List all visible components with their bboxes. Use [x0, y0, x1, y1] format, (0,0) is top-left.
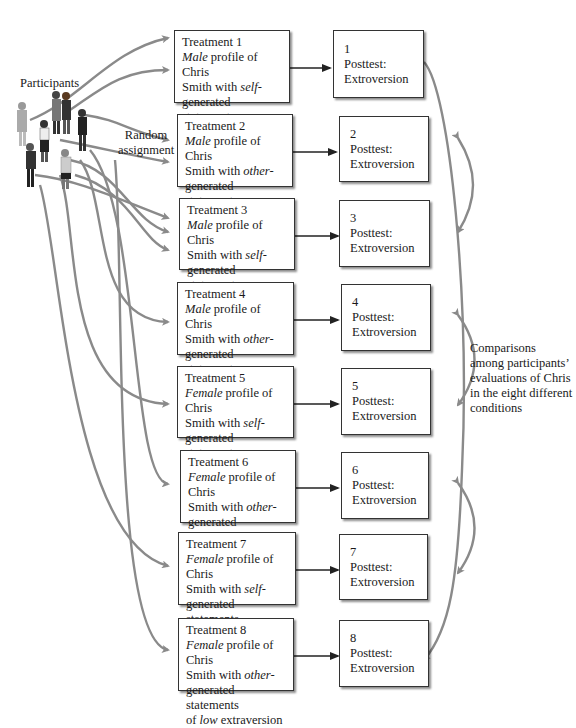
- treatment-line: Female profile of Chris: [186, 552, 289, 582]
- treatment-line: Smith with self-: [187, 248, 288, 263]
- posttest-measure: Extroversion: [352, 325, 430, 340]
- treatment-title: Treatment 3: [187, 203, 288, 218]
- posttest-label: Posttest:: [344, 57, 423, 72]
- random-assignment-line: assignment: [118, 143, 174, 158]
- treatment-line: Female profile of Chris: [185, 386, 287, 416]
- treatment-line: Male profile of Chris: [187, 218, 288, 248]
- treatment-title: Treatment 2: [185, 119, 286, 134]
- treatment-line: Smith with other-: [185, 164, 286, 179]
- treatment-line: of low extraversion: [186, 713, 287, 728]
- posttest-number: 3: [350, 211, 429, 226]
- posttest-measure: Extroversion: [352, 493, 428, 508]
- treatment-line: Smith with self-: [186, 582, 289, 597]
- posttest-measure: Extroversion: [350, 157, 428, 172]
- treatment-line: Male profile of Chris: [185, 134, 286, 164]
- treatment-line: Female profile of Chris: [186, 638, 287, 668]
- participants-illustration: [0, 0, 170, 200]
- treatment-line: Smith with self-: [182, 80, 283, 95]
- comparisons-line: in the eight different: [470, 386, 576, 401]
- treatment-title: Treatment 8: [186, 623, 287, 638]
- posttest-label: Posttest:: [352, 310, 430, 325]
- treatment-box-2: Treatment 2Male profile of ChrisSmith wi…: [177, 114, 293, 187]
- treatment-line: Smith with other-: [186, 668, 287, 683]
- posttest-box-7: 7Posttest:Extroversion: [339, 534, 428, 600]
- treatment-line: Smith with other-: [185, 332, 287, 347]
- treatment-title: Treatment 5: [185, 371, 287, 386]
- person-icon: [17, 91, 87, 189]
- comparisons-label: Comparisons among participants’ evaluati…: [470, 341, 576, 416]
- treatment-title: Treatment 6: [188, 455, 289, 470]
- treatment-box-8: Treatment 8Female profile of ChrisSmith …: [178, 618, 294, 691]
- treatment-line: Male profile of Chris: [182, 50, 283, 80]
- comparisons-line: among participants’: [470, 356, 576, 371]
- posttest-measure: Extroversion: [352, 409, 430, 424]
- treatment-title: Treatment 4: [185, 287, 287, 302]
- posttest-number: 5: [352, 379, 430, 394]
- posttest-number: 4: [352, 295, 430, 310]
- posttest-measure: Extroversion: [344, 72, 423, 87]
- posttest-measure: Extroversion: [350, 661, 428, 676]
- treatment-line: Smith with self-: [185, 416, 287, 431]
- posttest-label: Posttest:: [352, 394, 430, 409]
- comparisons-line: Comparisons: [470, 341, 576, 356]
- posttest-label: Posttest:: [350, 226, 429, 241]
- treatment-box-3: Treatment 3Male profile of ChrisSmith wi…: [179, 198, 295, 270]
- comparisons-line: conditions: [470, 401, 576, 416]
- random-assignment-label: Random assignment: [118, 128, 174, 158]
- posttest-measure: Extroversion: [350, 241, 429, 256]
- posttest-number: 6: [352, 463, 428, 478]
- treatment-line: Male profile of Chris: [185, 302, 287, 332]
- posttest-number: 8: [350, 631, 428, 646]
- treatment-title: Treatment 7: [186, 537, 289, 552]
- participants-label: Participants: [20, 76, 79, 91]
- posttest-box-2: 2Posttest:Extroversion: [339, 116, 429, 182]
- posttest-number: 2: [350, 127, 428, 142]
- random-assignment-line: Random: [118, 128, 174, 143]
- posttest-measure: Extroversion: [350, 575, 427, 590]
- treatment-line: Female profile of Chris: [188, 470, 289, 500]
- posttest-box-5: 5Posttest:Extroversion: [341, 368, 431, 435]
- posttest-label: Posttest:: [350, 646, 428, 661]
- treatment-box-4: Treatment 4Male profile of ChrisSmith wi…: [177, 282, 294, 355]
- treatment-box-5: Treatment 5Female profile of ChrisSmith …: [177, 366, 294, 438]
- posttest-number: 1: [344, 42, 423, 57]
- treatment-line: generated statements: [186, 683, 287, 713]
- treatment-box-6: Treatment 6Female profile of ChrisSmith …: [180, 450, 296, 523]
- treatment-box-1: Treatment 1Male profile of ChrisSmith wi…: [174, 30, 290, 103]
- treatment-line: Smith with other-: [188, 500, 289, 515]
- posttest-box-8: 8Posttest:Extroversion: [339, 620, 429, 687]
- posttest-label: Posttest:: [352, 478, 428, 493]
- treatment-box-7: Treatment 7Female profile of ChrisSmith …: [178, 532, 296, 605]
- posttest-box-3: 3Posttest:Extroversion: [339, 200, 430, 267]
- posttest-label: Posttest:: [350, 560, 427, 575]
- treatment-title: Treatment 1: [182, 35, 283, 50]
- posttest-box-6: 6Posttest:Extroversion: [341, 452, 429, 519]
- posttest-box-4: 4Posttest:Extroversion: [341, 284, 431, 351]
- posttest-box-1: 1Posttest:Extroversion: [333, 30, 424, 98]
- posttest-label: Posttest:: [350, 142, 428, 157]
- comparisons-line: evaluations of Chris: [470, 371, 576, 386]
- posttest-number: 7: [350, 545, 427, 560]
